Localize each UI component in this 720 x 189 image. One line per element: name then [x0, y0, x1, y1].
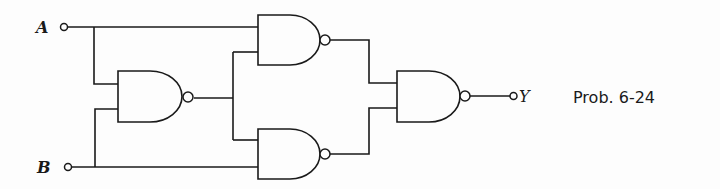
- wires: [68, 27, 511, 167]
- input-terminal-a: [61, 24, 68, 31]
- nand-gate-g4: [397, 71, 470, 122]
- nand-gate-g3: [258, 129, 330, 179]
- output-terminal-y: [510, 93, 517, 100]
- input-terminal-b: [65, 164, 72, 171]
- nand-circuit-diagram: A B Y: [0, 0, 720, 189]
- output-label-y: Y: [519, 87, 531, 106]
- input-label-b: B: [36, 158, 51, 177]
- nand-gate-g2: [258, 15, 330, 65]
- nand-gate-g1: [118, 71, 193, 122]
- input-label-a: A: [34, 18, 48, 37]
- problem-caption: Prob. 6-24: [573, 88, 655, 107]
